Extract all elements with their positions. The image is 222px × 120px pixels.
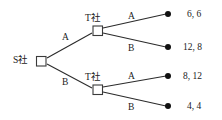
action-label-upper-b: B <box>128 44 134 54</box>
player-label-upper: T社 <box>85 14 101 24</box>
action-label-upper-a: A <box>128 12 135 22</box>
action-label-lower-b: B <box>128 103 134 113</box>
decision-node-root <box>37 57 47 67</box>
terminal-node-4 <box>165 103 171 109</box>
player-label-lower: T社 <box>85 73 101 83</box>
payoff-label-4: 4, 4 <box>187 102 201 112</box>
payoff-label-2: 12, 8 <box>183 43 202 53</box>
payoff-label-3: 8, 12 <box>183 72 202 82</box>
player-label-root: S社 <box>13 56 28 66</box>
edge-root-to-upper <box>47 33 92 58</box>
decision-node-upper <box>93 26 103 36</box>
payoff-label-1: 6, 6 <box>187 10 201 20</box>
action-label-root-a: A <box>62 33 69 43</box>
action-label-root-b: B <box>62 78 68 88</box>
edge-upper-to-leaf2 <box>103 33 166 47</box>
terminal-node-1 <box>165 11 171 17</box>
terminal-node-2 <box>165 44 171 50</box>
edge-lower-to-leaf4 <box>103 92 166 106</box>
game-tree-diagram: S社 T社 T社 A B A B A B 6, 6 12, 8 8, 12 4,… <box>0 0 222 120</box>
terminal-node-3 <box>165 73 171 79</box>
decision-node-lower <box>93 85 103 95</box>
action-label-lower-a: A <box>128 72 135 82</box>
